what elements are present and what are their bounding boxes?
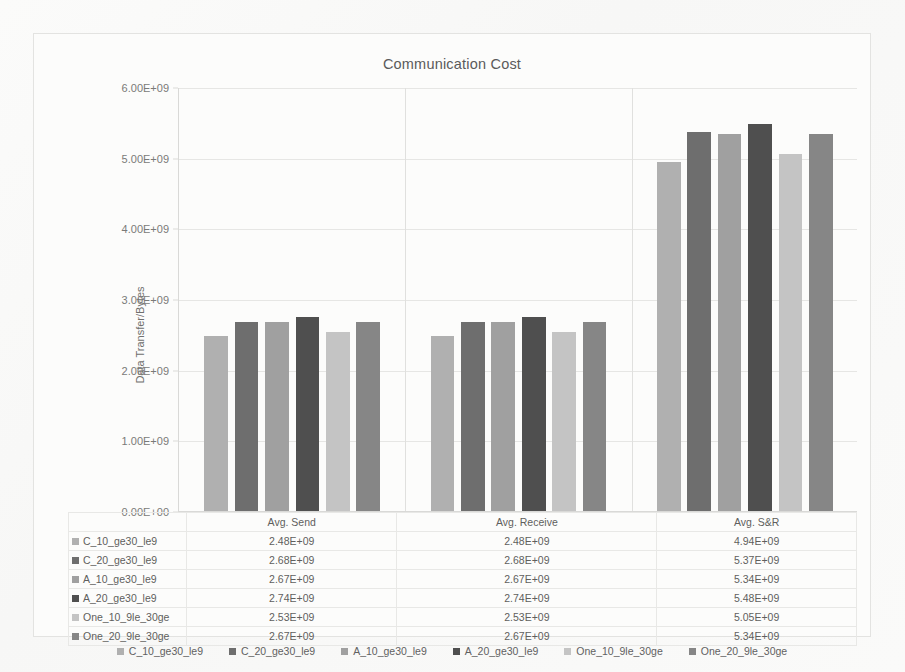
category-separator xyxy=(405,88,406,511)
legend-label: C_10_ge30_le9 xyxy=(129,645,203,657)
bar xyxy=(204,336,228,511)
series-color-swatch-icon xyxy=(72,557,79,564)
bar xyxy=(491,322,515,511)
legend-label: One_20_9le_30ge xyxy=(701,645,787,657)
table-row: One_10_9le_30ge2.53E+092.53E+095.05E+09 xyxy=(69,608,857,627)
table-column-header: Avg. Receive xyxy=(397,513,657,532)
series-color-swatch-icon xyxy=(72,576,79,583)
legend-item[interactable]: A_20_ge30_le9 xyxy=(453,645,539,657)
chart-legend: C_10_ge30_le9C_20_ge30_le9A_10_ge30_le9A… xyxy=(68,645,836,657)
table-column-header: Avg. Send xyxy=(187,513,397,532)
table-series-name-cell: A_10_ge30_le9 xyxy=(69,570,187,589)
table-value-cell: 2.74E+09 xyxy=(397,589,657,608)
table-corner-cell xyxy=(69,513,187,532)
series-name-label: C_20_ge30_le9 xyxy=(83,554,157,566)
table-value-cell: 4.94E+09 xyxy=(657,532,857,551)
legend-color-swatch-icon xyxy=(229,648,236,655)
series-name-label: A_20_ge30_le9 xyxy=(83,592,157,604)
table-row: A_10_ge30_le92.67E+092.67E+095.34E+09 xyxy=(69,570,857,589)
gridline xyxy=(179,88,857,89)
y-axis-tick-label: 1.00E+09 xyxy=(122,435,178,447)
table-value-cell: 5.37E+09 xyxy=(657,551,857,570)
series-name-label: One_20_9le_30ge xyxy=(83,630,169,642)
y-axis-tick-mark xyxy=(173,158,178,159)
bar xyxy=(265,322,289,511)
table-series-name-cell: A_20_ge30_le9 xyxy=(69,589,187,608)
table-series-name-cell: One_10_9le_30ge xyxy=(69,608,187,627)
y-axis-tick-label: 3.00E+09 xyxy=(122,294,178,306)
bar xyxy=(356,322,380,511)
y-axis-tick-mark xyxy=(173,370,178,371)
y-axis-tick-label: 2.00E+09 xyxy=(122,365,178,377)
plot-area xyxy=(178,88,857,512)
table-column-header: Avg. S&R xyxy=(657,513,857,532)
chart-frame: Communication Cost Data Transfer/Bytes 0… xyxy=(33,33,871,637)
table-value-cell: 2.67E+09 xyxy=(397,627,657,646)
y-axis-tick-mark xyxy=(173,88,178,89)
series-color-swatch-icon xyxy=(72,595,79,602)
table-value-cell: 5.48E+09 xyxy=(657,589,857,608)
data-table: Avg. SendAvg. ReceiveAvg. S&RC_10_ge30_l… xyxy=(68,512,857,646)
legend-label: A_20_ge30_le9 xyxy=(465,645,539,657)
y-axis-tick-label: 4.00E+09 xyxy=(122,223,178,235)
table-row: One_20_9le_30ge2.67E+092.67E+095.34E+09 xyxy=(69,627,857,646)
table-value-cell: 2.53E+09 xyxy=(397,608,657,627)
legend-color-swatch-icon xyxy=(117,648,124,655)
series-color-swatch-icon xyxy=(72,538,79,545)
y-axis-tick-label: 6.00E+09 xyxy=(122,82,178,94)
legend-label: One_10_9le_30ge xyxy=(576,645,662,657)
table-value-cell: 2.53E+09 xyxy=(187,608,397,627)
table-value-cell: 2.67E+09 xyxy=(187,570,397,589)
legend-label: C_20_ge30_le9 xyxy=(241,645,315,657)
legend-color-swatch-icon xyxy=(341,648,348,655)
legend-item[interactable]: C_20_ge30_le9 xyxy=(229,645,315,657)
table-value-cell: 5.05E+09 xyxy=(657,608,857,627)
series-name-label: C_10_ge30_le9 xyxy=(83,535,157,547)
legend-label: A_10_ge30_le9 xyxy=(353,645,427,657)
legend-color-swatch-icon xyxy=(689,648,696,655)
table-value-cell: 2.68E+09 xyxy=(187,551,397,570)
legend-item[interactable]: C_10_ge30_le9 xyxy=(117,645,203,657)
y-axis-tick-mark xyxy=(173,441,178,442)
table-row: A_20_ge30_le92.74E+092.74E+095.48E+09 xyxy=(69,589,857,608)
bar xyxy=(461,322,485,511)
table-series-name-cell: C_20_ge30_le9 xyxy=(69,551,187,570)
bar xyxy=(687,132,711,511)
legend-item[interactable]: A_10_ge30_le9 xyxy=(341,645,427,657)
bar xyxy=(583,322,607,511)
series-name-label: One_10_9le_30ge xyxy=(83,611,169,623)
series-name-label: A_10_ge30_le9 xyxy=(83,573,157,585)
table-header-row: Avg. SendAvg. ReceiveAvg. S&R xyxy=(69,513,857,532)
table-series-name-cell: One_20_9le_30ge xyxy=(69,627,187,646)
bar xyxy=(522,317,546,511)
bar xyxy=(779,154,803,511)
series-color-swatch-icon xyxy=(72,614,79,621)
legend-color-swatch-icon xyxy=(564,648,571,655)
category-separator xyxy=(632,88,633,511)
series-color-swatch-icon xyxy=(72,633,79,640)
bar xyxy=(718,134,742,511)
legend-item[interactable]: One_20_9le_30ge xyxy=(689,645,787,657)
legend-color-swatch-icon xyxy=(453,648,460,655)
table-series-name-cell: C_10_ge30_le9 xyxy=(69,532,187,551)
table-row: C_20_ge30_le92.68E+092.68E+095.37E+09 xyxy=(69,551,857,570)
table-value-cell: 5.34E+09 xyxy=(657,570,857,589)
y-axis-tick-label: 5.00E+09 xyxy=(122,153,178,165)
bar xyxy=(657,162,681,511)
table-value-cell: 5.34E+09 xyxy=(657,627,857,646)
table-value-cell: 2.48E+09 xyxy=(397,532,657,551)
table-value-cell: 2.68E+09 xyxy=(397,551,657,570)
legend-item[interactable]: One_10_9le_30ge xyxy=(564,645,662,657)
y-axis-tick-mark xyxy=(173,300,178,301)
plot-wrap: 0.00E+001.00E+092.00E+093.00E+094.00E+09… xyxy=(178,88,857,512)
bar xyxy=(431,336,455,511)
table-row: C_10_ge30_le92.48E+092.48E+094.94E+09 xyxy=(69,532,857,551)
bar xyxy=(296,317,320,511)
bar xyxy=(809,134,833,511)
table-value-cell: 2.48E+09 xyxy=(187,532,397,551)
bar xyxy=(235,322,259,511)
table-value-cell: 2.67E+09 xyxy=(187,627,397,646)
table-value-cell: 2.74E+09 xyxy=(187,589,397,608)
bar xyxy=(552,332,576,511)
table-value-cell: 2.67E+09 xyxy=(397,570,657,589)
